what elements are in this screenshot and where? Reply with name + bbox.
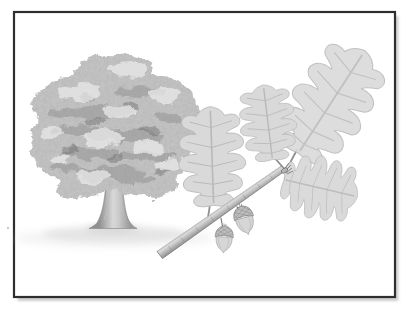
page-background <box>0 0 409 314</box>
oak-illustration-canvas <box>0 0 409 314</box>
stray-mark <box>7 227 9 229</box>
framed-oak-illustration <box>0 0 409 314</box>
